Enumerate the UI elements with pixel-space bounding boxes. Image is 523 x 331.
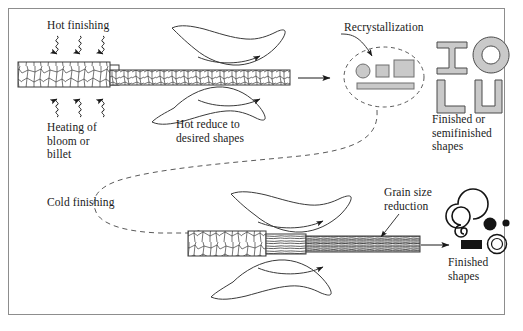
flat-strip-icon xyxy=(461,240,482,249)
c-channel-icon xyxy=(475,80,502,113)
flat-plate-icon xyxy=(357,83,414,89)
hot-reduce-label: Hot reduce to desired shapes xyxy=(176,118,244,145)
fine-grain-strip-icon xyxy=(110,70,290,85)
finished-or-semifinished-label: Finished or semifinished shapes xyxy=(432,113,492,154)
process-diagram: Hot finishing Heating of bloom or billet… xyxy=(0,0,523,331)
round-bar-icon xyxy=(356,64,370,78)
large-rod-icon xyxy=(484,218,497,231)
rectangular-bar-icon xyxy=(394,60,414,77)
hot-rolling-group xyxy=(18,26,330,124)
diagram-canvas xyxy=(0,0,523,331)
small-square-bar-icon xyxy=(376,65,389,77)
i-beam-icon xyxy=(437,42,467,74)
coil-icon xyxy=(446,189,488,237)
heat-arrow-down-icon xyxy=(56,36,104,54)
heat-arrow-up-icon xyxy=(56,99,104,117)
recrystallization-group xyxy=(341,34,424,107)
grain-size-reduction-label: Grain size reduction xyxy=(384,186,432,213)
l-angle-icon xyxy=(437,80,465,113)
finished-shapes-group xyxy=(446,189,510,254)
fibrous-elongated-grain-strip-icon xyxy=(306,236,420,252)
tube-icon xyxy=(492,239,503,250)
rolling-roll-upper-icon xyxy=(172,26,285,65)
rolling-roll-upper-icon xyxy=(231,192,351,232)
coarse-grain-strip-icon xyxy=(18,62,110,87)
rolling-roll-lower-icon xyxy=(211,260,331,299)
callout-leader-line-icon xyxy=(341,34,372,56)
finished-shapes-label: Finished shapes xyxy=(448,256,488,283)
heating-of-bloom-or-billet-label: Heating of bloom or billet xyxy=(47,121,97,162)
o-ring-icon xyxy=(473,37,509,73)
hot-finishing-label: Hot finishing xyxy=(47,19,109,33)
fibrous-elongated-grain-strip-icon xyxy=(266,234,306,254)
small-rod-icon xyxy=(502,219,509,226)
cold-finishing-label: Cold finishing xyxy=(47,196,115,210)
tube-icon xyxy=(488,235,507,254)
recrystallization-label: Recrystallization xyxy=(344,21,424,35)
coarse-grain-strip-icon xyxy=(188,231,266,256)
callout-leader-line-icon xyxy=(381,214,399,237)
semifinished-shapes-group xyxy=(437,37,509,113)
